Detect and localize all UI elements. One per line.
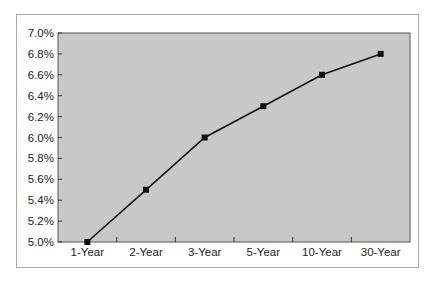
y-tick-label: 5.6%	[28, 173, 54, 185]
yield-curve-chart: 5.0%5.2%5.4%5.6%5.8%6.0%6.2%6.4%6.6%6.8%…	[0, 0, 429, 286]
x-tick-label: 3-Year	[188, 246, 222, 258]
y-tick-label: 7.0%	[28, 27, 54, 39]
data-point-marker	[260, 103, 266, 109]
y-tick-label: 5.8%	[28, 152, 54, 164]
x-tick-label: 30-Year	[361, 246, 401, 258]
y-tick-label: 6.2%	[28, 111, 54, 123]
data-point-marker	[202, 135, 208, 141]
y-tick-label: 5.2%	[28, 215, 54, 227]
data-point-marker	[319, 72, 325, 78]
x-tick-label: 1-Year	[71, 246, 105, 258]
plot-area	[58, 33, 410, 242]
y-tick-label: 6.0%	[28, 132, 54, 144]
y-tick-label: 6.4%	[28, 90, 54, 102]
x-tick-label: 10-Year	[302, 246, 342, 258]
data-point-marker	[143, 187, 149, 193]
y-tick-label: 5.0%	[28, 236, 54, 248]
y-tick-label: 5.4%	[28, 194, 54, 206]
y-tick-label: 6.8%	[28, 48, 54, 60]
data-point-marker	[378, 51, 384, 57]
x-tick-label: 2-Year	[129, 246, 163, 258]
y-tick-label: 6.6%	[28, 69, 54, 81]
data-point-marker	[84, 239, 90, 245]
x-tick-label: 5-Year	[247, 246, 281, 258]
